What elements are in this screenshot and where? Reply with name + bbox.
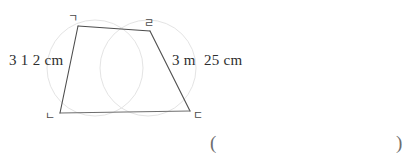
side-bottom-edge bbox=[60, 111, 190, 113]
right-construction-arc bbox=[100, 20, 196, 116]
side-top-edge bbox=[78, 26, 150, 31]
right-side-measurement-label: 3 m 25 cm bbox=[172, 53, 243, 68]
answer-close-paren: ) bbox=[396, 133, 402, 152]
answer-open-paren: ( bbox=[210, 133, 216, 152]
trapezoid-outline bbox=[60, 26, 190, 113]
geometry-figure: ㄱ ㄹ ㄴ ㄷ 3 1 2 cm 3 m 25 cm ( ) bbox=[0, 0, 411, 165]
vertex-label-d: ㄷ bbox=[193, 110, 203, 121]
vertex-label-c: ㄴ bbox=[45, 111, 55, 122]
trapezoid-diagram-svg bbox=[0, 0, 411, 165]
vertex-label-b: ㄹ bbox=[144, 18, 154, 29]
side-right-edge bbox=[150, 31, 190, 111]
left-side-measurement-label: 3 1 2 cm bbox=[9, 53, 63, 68]
vertex-label-a: ㄱ bbox=[68, 13, 78, 24]
left-construction-arc bbox=[47, 20, 143, 116]
side-left-edge bbox=[60, 26, 78, 113]
